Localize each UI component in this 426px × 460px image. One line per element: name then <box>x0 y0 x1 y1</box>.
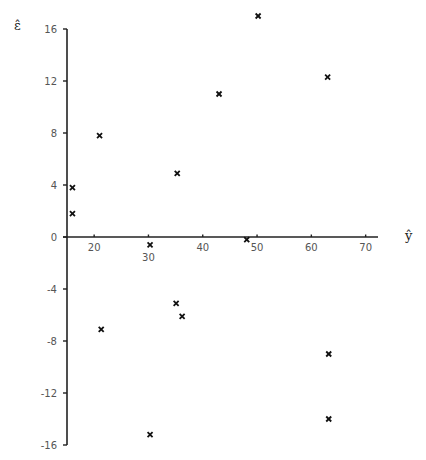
y-axis-label: ε̂ <box>14 18 21 33</box>
data-point-x-marker <box>99 327 104 332</box>
y-tick-label: -12 <box>41 388 57 399</box>
data-point-x-marker <box>148 432 153 437</box>
data-point-x-marker <box>244 237 249 242</box>
data-point-x-marker <box>175 171 180 176</box>
y-tick-label: 12 <box>44 76 57 87</box>
data-point-x-marker <box>326 352 331 357</box>
y-tick-label: 8 <box>51 128 57 139</box>
x-tick-label: 30 <box>142 252 155 263</box>
data-point-x-marker <box>326 417 331 422</box>
data-points <box>70 14 331 438</box>
x-axis-label: ŷ <box>404 228 413 243</box>
data-point-x-marker <box>97 133 102 138</box>
data-point-x-marker <box>325 75 330 80</box>
x-tick-label: 20 <box>88 242 101 253</box>
data-point-x-marker <box>148 242 153 247</box>
x-tick-label: 50 <box>251 242 264 253</box>
data-point-x-marker <box>180 314 185 319</box>
x-tick-label: 40 <box>196 242 209 253</box>
y-tick-label: -16 <box>41 440 57 451</box>
data-point-x-marker <box>70 211 75 216</box>
residual-scatter-plot: -16-12-8-40481216203040506070 ε̂ ŷ <box>0 0 426 460</box>
y-tick-label: 0 <box>51 232 57 243</box>
data-point-x-marker <box>70 185 75 190</box>
y-tick-label: -4 <box>47 284 57 295</box>
y-tick-label: 4 <box>51 180 57 191</box>
data-point-x-marker <box>217 92 222 97</box>
y-tick-label: -8 <box>47 336 57 347</box>
data-point-x-marker <box>256 14 261 19</box>
y-tick-label: 16 <box>44 24 57 35</box>
x-tick-label: 60 <box>305 242 318 253</box>
data-point-x-marker <box>174 301 179 306</box>
x-tick-label: 70 <box>359 242 372 253</box>
